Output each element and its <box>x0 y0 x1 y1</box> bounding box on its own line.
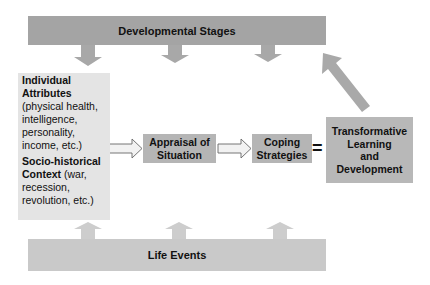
socio-historical-block: Socio-historical Context (war, recession… <box>22 155 110 207</box>
outcome-line-2: Learning <box>332 138 407 151</box>
socio-historical-title: Socio-historical Context <box>22 155 101 180</box>
down-arrow-2 <box>161 45 189 63</box>
up-arrow-2 <box>165 222 193 239</box>
life-events-label: Life Events <box>148 249 207 261</box>
outcome-line-3: and <box>332 150 407 163</box>
life-events-bar: Life Events <box>28 239 326 271</box>
developmental-stages-label: Developmental Stages <box>118 25 235 37</box>
equals-sign: = <box>312 139 323 157</box>
outcome-line-4: Development <box>332 163 407 176</box>
coping-strategies-box: Coping Strategies <box>252 134 312 163</box>
arrow-left-to-appraisal <box>109 139 142 158</box>
appraisal-label: Appraisal of Situation <box>143 136 216 162</box>
down-arrow-1 <box>74 45 102 66</box>
up-arrow-1 <box>74 222 102 239</box>
individual-context-box: Individual Attributes (physical health, … <box>18 73 110 220</box>
down-arrow-3 <box>254 45 282 62</box>
appraisal-of-situation-box: Appraisal of Situation <box>143 134 216 163</box>
developmental-stages-bar: Developmental Stages <box>28 16 326 45</box>
outcome-line-1: Transformative <box>332 125 407 138</box>
individual-attributes-block: Individual Attributes (physical health, … <box>22 74 110 152</box>
individual-attributes-title: Individual Attributes <box>22 74 72 99</box>
arrow-appraisal-to-coping <box>218 139 251 158</box>
coping-label: Coping Strategies <box>252 136 312 162</box>
up-arrow-3 <box>266 222 294 239</box>
individual-attributes-detail: (physical health, intelligence, personal… <box>22 100 98 151</box>
transformative-learning-box: Transformative Learning and Development <box>326 117 413 183</box>
diagonal-feedback-arrow <box>322 53 370 112</box>
